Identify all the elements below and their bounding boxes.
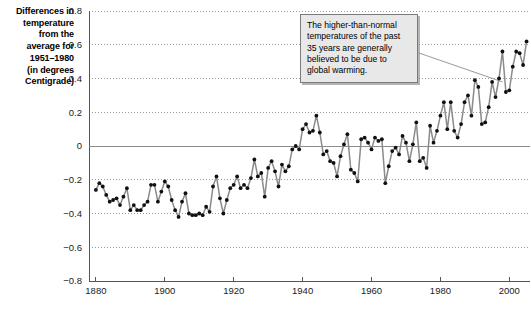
x-tick-label: 1980: [430, 285, 451, 296]
y-tick-label: 0: [77, 140, 82, 151]
chart-figure: Differences in temperature from the aver…: [0, 0, 531, 311]
x-axis-ticks: [96, 277, 509, 281]
x-tick-label: 1920: [223, 285, 244, 296]
x-tick-label: 1880: [85, 285, 106, 296]
plot-area: 0.80.60.40.20−0.2−0.4−0.6−0.8 1880190019…: [0, 0, 531, 311]
y-tick-label: −0.2: [63, 174, 82, 185]
y-tick-label: 0.6: [69, 39, 82, 50]
y-tick-label: 0.8: [69, 5, 82, 16]
annotation-leader-line: [419, 53, 502, 82]
x-tick-label: 2000: [499, 285, 520, 296]
y-tick-label: −0.8: [63, 275, 82, 286]
x-axis-tick-labels: 1880190019201940196019802000: [85, 285, 520, 296]
y-tick-label: 0.2: [69, 107, 82, 118]
y-axis-tick-labels: 0.80.60.40.20−0.2−0.4−0.6−0.8: [63, 5, 82, 286]
x-tick-label: 1940: [292, 285, 313, 296]
y-tick-label: 0.4: [69, 73, 82, 84]
x-tick-label: 1900: [154, 285, 175, 296]
annotation-text: The higher-than-normal temperatures of t…: [307, 20, 400, 75]
x-tick-label: 1960: [361, 285, 382, 296]
y-tick-label: −0.4: [63, 208, 82, 219]
annotation-callout: The higher-than-normal temperatures of t…: [300, 14, 418, 83]
y-tick-label: −0.6: [63, 242, 82, 253]
